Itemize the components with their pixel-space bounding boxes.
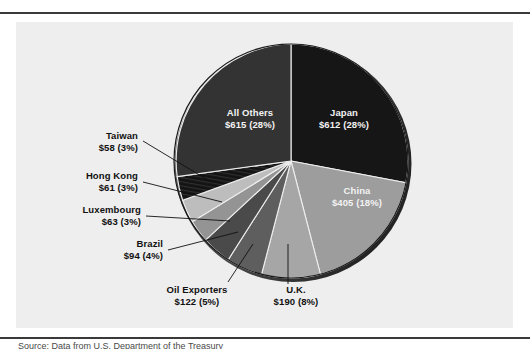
slice-label-luxembourg-name: Luxembourg [34, 204, 141, 216]
slice-label-hong-kong: Hong Kong $61 (3%) [38, 170, 138, 193]
bottom-rule [0, 337, 530, 339]
pie-slices [176, 44, 408, 278]
slice-label-uk: U.K. $190 (8%) [254, 284, 338, 307]
slice-label-luxembourg: Luxembourg $63 (3%) [34, 204, 141, 227]
slice-label-taiwan-name: Taiwan [46, 130, 138, 142]
slice-label-all-others: All Others $615 (28%) [204, 107, 296, 130]
slice-label-taiwan: Taiwan $58 (3%) [46, 130, 138, 153]
slice-label-japan: Japan $612 (28%) [298, 107, 390, 130]
source-note: Source: Data from U.S. Department of the… [18, 341, 512, 349]
slice-label-oil-exporters-value: $122 (5%) [149, 296, 245, 308]
slice-label-uk-name: U.K. [254, 284, 338, 296]
slice-label-oil-exporters: Oil Exporters $122 (5%) [149, 284, 245, 307]
pie-chart: All Others $615 (28%) Japan $612 (28%) C… [16, 22, 513, 328]
slice-label-hong-kong-name: Hong Kong [38, 170, 138, 182]
slice-label-brazil-value: $94 (4%) [74, 250, 163, 262]
slice-label-all-others-name: All Others [204, 107, 296, 119]
slice-label-china-value: $405 (18%) [311, 197, 403, 209]
slice-label-uk-value: $190 (8%) [254, 296, 338, 308]
slice-label-hong-kong-value: $61 (3%) [38, 182, 138, 194]
slice-label-luxembourg-value: $63 (3%) [34, 216, 141, 228]
slice-label-japan-value: $612 (28%) [298, 119, 390, 131]
figure-panel: All Others $615 (28%) Japan $612 (28%) C… [16, 22, 513, 328]
slice-label-taiwan-value: $58 (3%) [46, 142, 138, 154]
slice-label-japan-name: Japan [298, 107, 390, 119]
slice-label-brazil-name: Brazil [74, 238, 163, 250]
slice-label-china-name: China [311, 185, 403, 197]
slice-label-oil-exporters-name: Oil Exporters [149, 284, 245, 296]
top-rule [0, 12, 530, 14]
slice-label-brazil: Brazil $94 (4%) [74, 238, 163, 261]
slice-label-china: China $405 (18%) [311, 185, 403, 208]
slice-label-all-others-value: $615 (28%) [204, 119, 296, 131]
